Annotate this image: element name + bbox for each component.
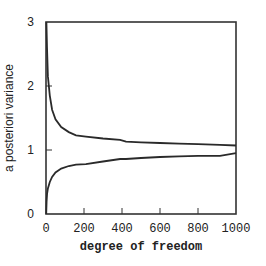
y-tick-label: 2 (27, 79, 34, 93)
y-tick-label: 1 (27, 143, 34, 157)
series-line-lower-bound (46, 153, 236, 214)
x-tick-labels: 02004006008001000 (42, 222, 250, 236)
x-tick-label: 400 (111, 222, 133, 236)
curves (46, 22, 236, 214)
ticks (46, 86, 198, 214)
chart: 0123 02004006008001000 degree of freedom… (0, 0, 266, 266)
y-tick-label: 3 (27, 15, 34, 29)
y-axis-label: a posteriori variance (2, 64, 16, 172)
x-tick-label: 0 (42, 222, 49, 236)
y-tick-label: 0 (27, 207, 34, 221)
x-tick-label: 800 (187, 222, 209, 236)
x-axis-label: degree of freedom (80, 240, 202, 254)
y-tick-labels: 0123 (27, 15, 34, 221)
plot-frame (46, 22, 236, 214)
x-tick-label: 1000 (222, 222, 251, 236)
x-tick-label: 200 (73, 222, 95, 236)
series-line-upper-bound (46, 22, 236, 146)
x-tick-label: 600 (149, 222, 171, 236)
